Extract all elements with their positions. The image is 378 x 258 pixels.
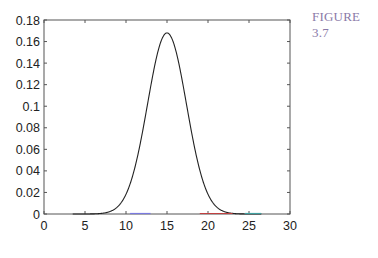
y-tick-label: 0.16 <box>16 35 40 49</box>
x-tick-label: 30 <box>283 219 297 233</box>
series-gaussian <box>73 33 262 214</box>
x-tick-label: 20 <box>201 219 215 233</box>
y-tick-label: 0.14 <box>16 57 40 71</box>
y-tick-label: 0.12 <box>16 78 40 92</box>
line-chart: 00.020 040.060.080.10.120.140.160.18 051… <box>0 0 378 258</box>
y-tick-label: 0.06 <box>16 143 40 157</box>
x-tick-label: 25 <box>242 219 256 233</box>
y-axis: 00.020 040.060.080.10.120.140.160.18 <box>16 14 290 222</box>
y-tick-label: 0.18 <box>16 14 40 28</box>
y-tick-label: 0.02 <box>16 186 40 200</box>
y-tick-label: 0 04 <box>16 164 40 178</box>
x-tick-label: 10 <box>119 219 133 233</box>
x-tick-label: 0 <box>41 219 48 233</box>
x-tick-label: 5 <box>82 219 89 233</box>
plot-series <box>73 33 262 214</box>
x-tick-label: 15 <box>160 219 174 233</box>
axes-frame <box>44 20 290 214</box>
plot-box <box>44 20 290 214</box>
x-axis: 051015202530 <box>41 20 297 233</box>
y-tick-label: 0.08 <box>16 121 40 135</box>
y-tick-label: 0 <box>33 208 40 222</box>
y-tick-label: 0.1 <box>23 100 40 114</box>
